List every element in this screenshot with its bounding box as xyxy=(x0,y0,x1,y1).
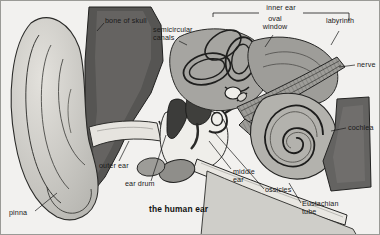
label-middle-ear: middle ear xyxy=(233,168,255,185)
label-bone-of-skull: bone of skull xyxy=(105,17,147,25)
label-ossicles: ossicles xyxy=(265,186,291,194)
label-nerve: nerve xyxy=(357,61,375,69)
label-labyrinth: labyrinth xyxy=(316,17,364,25)
label-pinna: pinna xyxy=(9,209,27,217)
label-inner-ear: inner ear xyxy=(251,4,311,12)
ear-diagram-figure: bone of skull semicircular canals inner … xyxy=(0,0,380,235)
label-eustachian-tube: Eustachian tube xyxy=(302,200,339,217)
figure-title: the human ear xyxy=(149,204,208,214)
label-cochlea: cochlea xyxy=(348,124,373,132)
label-outer-ear: outer ear xyxy=(99,162,129,170)
label-semicircular-canals: semicircular canals xyxy=(153,26,193,43)
label-ear-drum: ear drum xyxy=(125,180,155,188)
label-oval-window: oval window xyxy=(249,15,301,32)
